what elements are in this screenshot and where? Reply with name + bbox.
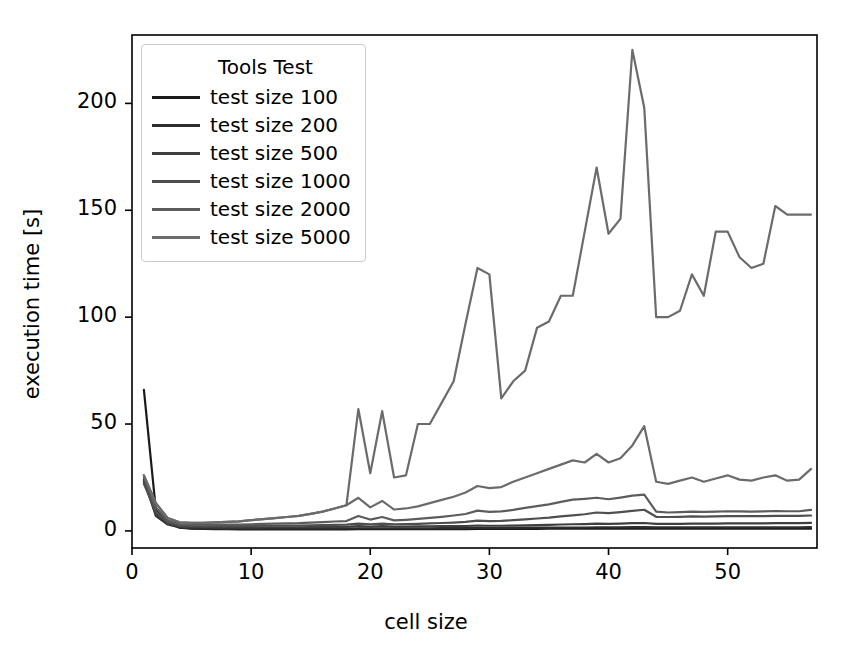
x-axis-label: cell size [0,610,852,634]
legend-line-swatch [152,180,200,183]
series-line-4 [144,477,811,524]
y-axis-label-wrap: execution time [s] [20,154,44,454]
legend-line-swatch [152,96,200,99]
legend-entries: test size 100test size 200test size 500t… [152,83,351,251]
x-tick-label: 0 [102,560,162,584]
series-line-5 [144,426,811,523]
legend: Tools Test test size 100test size 200tes… [141,44,366,262]
legend-item[interactable]: test size 100 [152,83,351,111]
y-tick-label: 150 [47,196,117,220]
legend-item[interactable]: test size 2000 [152,195,351,223]
legend-line-swatch [152,236,200,239]
x-tick-label: 50 [698,560,758,584]
legend-item-label: test size 500 [210,141,338,165]
x-tick-label: 30 [459,560,519,584]
y-tick-label: 50 [47,410,117,434]
legend-item-label: test size 200 [210,113,338,137]
legend-line-swatch [152,124,200,127]
legend-item[interactable]: test size 1000 [152,167,351,195]
y-tick-label: 100 [47,303,117,327]
legend-item-label: test size 100 [210,85,338,109]
y-tick-label: 0 [47,517,117,541]
y-axis-label: execution time [s] [20,209,44,399]
y-tick-label: 200 [47,89,117,113]
legend-item[interactable]: test size 5000 [152,223,351,251]
chart-page: 01020304050050100150200 execution time [… [0,0,852,660]
legend-item-label: test size 2000 [210,197,351,221]
legend-item[interactable]: test size 500 [152,139,351,167]
legend-item-label: test size 5000 [210,225,351,249]
x-axis-ticks [132,548,728,555]
y-axis-ticks [125,103,132,531]
legend-line-swatch [152,208,200,211]
x-tick-label: 20 [340,560,400,584]
legend-item[interactable]: test size 200 [152,111,351,139]
legend-line-swatch [152,152,200,155]
legend-item-label: test size 1000 [210,169,351,193]
x-tick-label: 40 [579,560,639,584]
x-tick-label: 10 [221,560,281,584]
legend-title: Tools Test [152,53,351,83]
series-line-0 [144,390,811,530]
